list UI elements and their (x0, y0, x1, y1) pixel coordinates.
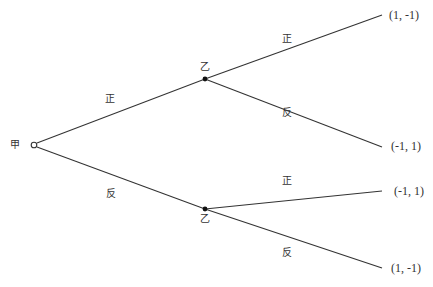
edge-label-upper-bottom: 反 (282, 107, 292, 119)
edge-label-root-lower: 反 (106, 188, 116, 200)
lower-node (203, 207, 208, 212)
tree-lines (0, 0, 433, 287)
edge-upper-top (205, 15, 382, 79)
payoff-4: (1, -1) (391, 262, 421, 274)
edge-root-lower (37, 147, 205, 209)
root-node (31, 142, 37, 148)
upper-node-label: 乙 (200, 61, 210, 73)
edge-root-upper (37, 79, 205, 143)
edge-upper-bottom (205, 79, 382, 147)
edge-label-lower-top: 正 (282, 175, 292, 187)
lower-node-label: 乙 (200, 213, 210, 225)
edge-label-lower-bottom: 反 (282, 247, 292, 259)
payoff-2: (-1, 1) (391, 140, 421, 152)
edge-lower-bottom (205, 209, 382, 268)
root-label: 甲 (10, 139, 20, 151)
edge-lower-top (205, 191, 382, 209)
payoff-3: (-1, 1) (394, 185, 424, 197)
edge-label-root-upper: 正 (105, 93, 115, 105)
upper-node (203, 77, 208, 82)
payoff-1: (1, -1) (389, 9, 419, 21)
edge-label-upper-top: 正 (282, 33, 292, 45)
